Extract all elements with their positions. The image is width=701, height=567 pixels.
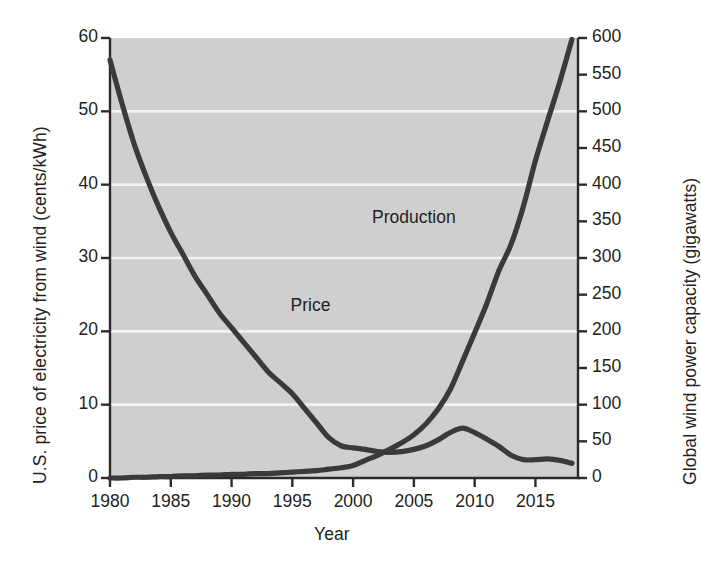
y-axis-right-ticks xyxy=(578,38,587,478)
y-tick-label-right: 50 xyxy=(592,429,654,450)
series-annotation-price: Price xyxy=(291,295,331,316)
x-axis-title: Year xyxy=(314,524,350,545)
series-annotation-production: Production xyxy=(372,207,456,228)
y-tick-label-right: 200 xyxy=(592,319,654,340)
y-tick-label-right: 150 xyxy=(592,356,654,377)
x-axis-ticks xyxy=(110,478,535,487)
y-tick-label-left: 30 xyxy=(36,246,98,267)
y-axis-left-ticks xyxy=(101,38,110,478)
y-tick-label-right: 550 xyxy=(592,63,654,84)
y-tick-label-left: 40 xyxy=(36,173,98,194)
y-tick-label-right: 500 xyxy=(592,99,654,120)
y-tick-label-left: 0 xyxy=(36,466,98,487)
y-tick-label-left: 10 xyxy=(36,393,98,414)
y-axis-right-title: Global wind power capacity (gigawatts) xyxy=(680,178,701,485)
y-tick-label-left: 20 xyxy=(36,319,98,340)
y-tick-label-left: 50 xyxy=(36,99,98,120)
y-tick-label-right: 250 xyxy=(592,283,654,304)
y-tick-label-right: 450 xyxy=(592,136,654,157)
y-tick-label-right: 350 xyxy=(592,209,654,230)
y-tick-label-right: 300 xyxy=(592,246,654,267)
y-tick-label-left: 60 xyxy=(36,26,98,47)
x-tick-label: 2015 xyxy=(495,491,575,512)
y-tick-label-right: 100 xyxy=(592,393,654,414)
y-tick-label-right: 600 xyxy=(592,26,654,47)
y-tick-label-right: 400 xyxy=(592,173,654,194)
y-tick-label-right: 0 xyxy=(592,466,654,487)
